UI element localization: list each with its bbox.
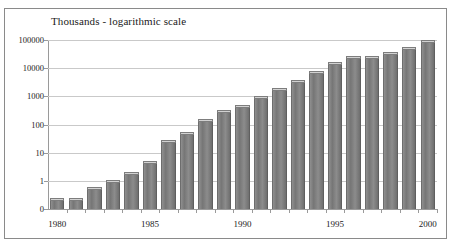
x-tick-mark (104, 209, 105, 213)
x-tick-mark (289, 209, 290, 213)
bar (161, 140, 175, 209)
x-tick-mark (326, 209, 327, 213)
bar (346, 56, 360, 209)
bar-top-cap (402, 47, 416, 50)
bar-top-cap (346, 56, 360, 59)
y-tick-label: 100000 (19, 35, 45, 45)
x-tick-mark (344, 209, 345, 213)
bar (143, 161, 157, 209)
bar (328, 62, 342, 209)
x-tick-mark (400, 209, 401, 213)
bar-top-cap (309, 71, 323, 74)
bar-top-cap (235, 105, 249, 108)
x-tick-mark (85, 209, 86, 213)
x-tick-mark (215, 209, 216, 213)
bar-top-cap (106, 180, 120, 183)
x-tick-label: 1995 (326, 219, 344, 229)
plot-area (48, 40, 437, 209)
bar-top-cap (143, 161, 157, 164)
bar (180, 132, 194, 209)
bar (235, 105, 249, 209)
bar-top-cap (328, 62, 342, 65)
x-tick-mark (307, 209, 308, 213)
bar-top-cap (69, 198, 83, 201)
x-tick-label: 1990 (234, 219, 252, 229)
bar (365, 56, 379, 209)
y-tick-label: 0 (40, 204, 44, 214)
y-tick-label: 10000 (23, 63, 44, 73)
y-tick-label: 1000 (27, 91, 44, 101)
bar (217, 110, 231, 209)
bar (69, 198, 83, 209)
x-tick-label: 2000 (419, 219, 437, 229)
bar (291, 80, 305, 209)
x-tick-mark (122, 209, 123, 213)
bar-top-cap (383, 52, 397, 55)
bar (254, 96, 268, 209)
chart-title: Thousands - logarithmic scale (51, 15, 186, 27)
bar-top-cap (421, 40, 435, 43)
bar-top-cap (217, 110, 231, 113)
x-tick-mark (270, 209, 271, 213)
bar (421, 40, 435, 209)
bar-top-cap (254, 96, 268, 99)
bar (124, 172, 138, 209)
bar-top-cap (161, 140, 175, 143)
bar-top-cap (124, 172, 138, 175)
y-tick-label: 1 (40, 176, 44, 186)
gridline (48, 40, 437, 41)
bar-top-cap (198, 119, 212, 122)
x-tick-mark (252, 209, 253, 213)
bar (383, 52, 397, 209)
bar (87, 187, 101, 209)
bar-top-cap (87, 187, 101, 190)
bar-top-cap (291, 80, 305, 83)
x-tick-mark (141, 209, 142, 213)
bar (106, 180, 120, 209)
x-tick-mark (363, 209, 364, 213)
x-axis-line (48, 209, 437, 210)
x-tick-mark (159, 209, 160, 213)
bar-top-cap (365, 56, 379, 59)
x-tick-mark (178, 209, 179, 213)
bar-top-cap (50, 198, 64, 201)
bar-top-cap (180, 132, 194, 135)
x-tick-mark (233, 209, 234, 213)
bar-top-cap (272, 88, 286, 91)
bar (402, 47, 416, 209)
x-tick-label: 1985 (141, 219, 159, 229)
x-tick-mark (381, 209, 382, 213)
y-tick-label: 100 (31, 120, 44, 130)
x-tick-label: 1980 (48, 219, 66, 229)
bar (272, 88, 286, 209)
bar (309, 71, 323, 209)
bar (50, 198, 64, 209)
x-tick-mark (196, 209, 197, 213)
y-tick-label: 10 (36, 148, 45, 158)
x-tick-mark (418, 209, 419, 213)
x-tick-mark (67, 209, 68, 213)
bar (198, 119, 212, 209)
x-tick-mark (437, 209, 438, 213)
y-axis-labels: 1000001000010001001010 (0, 0, 44, 246)
